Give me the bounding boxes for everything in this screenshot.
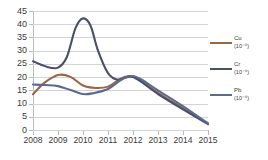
y-tick-label: 45 (4, 7, 27, 16)
chart-figure: 051015202530354045 200820092010201120122… (0, 0, 268, 160)
y-tick-label: 40 (4, 20, 27, 29)
y-tick-label: 20 (4, 73, 27, 82)
legend-label: Cr (234, 61, 240, 68)
y-tick-label: 10 (4, 99, 27, 108)
legend-label: Pb (234, 87, 241, 94)
y-tick-label: 0 (4, 126, 27, 135)
legend-item-cu[interactable]: Cu(10⁻⁶) (210, 34, 268, 60)
legend-swatch-pb (210, 94, 232, 96)
x-tick-label: 2013 (145, 136, 171, 145)
series-line-cu (33, 75, 208, 124)
chart-legend: Cu(10⁻⁶)Cr(10⁻⁶)Pb(10⁻⁶) (210, 34, 268, 112)
y-tick-label: 30 (4, 46, 27, 55)
x-tick-label: 2015 (195, 136, 221, 145)
x-tick-label: 2012 (120, 136, 146, 145)
series-line-pb (33, 76, 208, 124)
legend-swatch-cr (210, 68, 232, 70)
legend-item-cr[interactable]: Cr(10⁻⁶) (210, 60, 268, 86)
x-tick-label: 2008 (20, 136, 46, 145)
y-tick-label: 15 (4, 86, 27, 95)
plot-area (33, 11, 208, 130)
x-tick-label: 2014 (170, 136, 196, 145)
x-tick-label: 2010 (70, 136, 96, 145)
y-tick-label: 25 (4, 59, 27, 68)
series-lines (33, 11, 208, 130)
x-tick-label: 2011 (95, 136, 121, 145)
legend-unit: (10⁻⁶) (234, 69, 249, 76)
legend-unit: (10⁻⁶) (234, 43, 249, 50)
legend-swatch-cu (210, 42, 232, 44)
legend-item-pb[interactable]: Pb(10⁻⁶) (210, 86, 268, 112)
legend-label: Cu (234, 35, 242, 42)
x-tick-label: 2009 (45, 136, 71, 145)
legend-unit: (10⁻⁶) (234, 95, 249, 102)
series-line-cr (33, 18, 208, 124)
gridline (33, 130, 208, 131)
y-tick-label: 5 (4, 112, 27, 121)
y-tick-label: 35 (4, 33, 27, 42)
